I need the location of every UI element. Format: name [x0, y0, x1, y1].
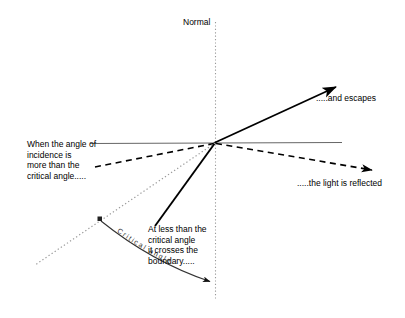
normal-label: Normal [183, 17, 210, 28]
reflected-dashed-ray [216, 144, 372, 171]
physics-diagram-canvas: Critical angle Normal When the angle of … [0, 0, 405, 318]
crosses-boundary-callout-label: At less than the critical angle it cross… [148, 224, 207, 266]
reflected-callout-label: .....the light is reflected [297, 178, 382, 189]
arc-start-dot [98, 217, 103, 222]
escapes-callout-label: .....and escapes [316, 93, 376, 104]
crossing-solid-ray [155, 143, 215, 226]
incidence-callout-label: When the angle of incidence is more than… [27, 139, 96, 181]
